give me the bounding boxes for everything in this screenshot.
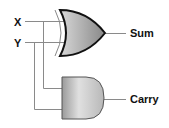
carry-label: Carry (130, 93, 160, 105)
xor-gate (55, 10, 105, 56)
xor-back-arc (55, 10, 61, 56)
and-body (62, 77, 104, 119)
input-x-label: X (14, 16, 22, 28)
input-y-label: Y (14, 37, 22, 49)
xor-body (60, 10, 105, 56)
wire-y-branch (35, 43, 63, 110)
half-adder-diagram: X Y Sum Carry (0, 0, 169, 128)
sum-label: Sum (130, 27, 154, 39)
and-gate (62, 77, 104, 119)
wire-x-branch (44, 22, 63, 89)
